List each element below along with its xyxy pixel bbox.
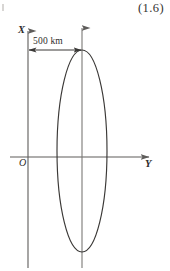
y-axis-label: Y bbox=[145, 158, 151, 169]
dimension-label: 500 km bbox=[33, 36, 63, 46]
orbit-figure: (1.6) X Y O 500 km bbox=[0, 0, 170, 271]
x-axis-label: X bbox=[18, 24, 25, 35]
origin-label: O bbox=[19, 157, 26, 168]
diagram-canvas bbox=[0, 0, 170, 271]
